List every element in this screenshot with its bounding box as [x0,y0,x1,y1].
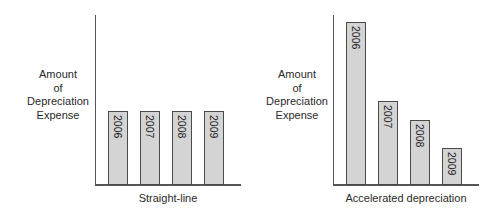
bar-label: 2009 [208,115,220,138]
bar-2007: 2007 [140,111,160,185]
bar-label: 2006 [350,26,362,49]
y-label-line: Depreciation [252,95,342,109]
bar-label: 2007 [382,105,394,128]
y-label-line: Expense [13,109,103,123]
x-axis-label: Straight-line [95,192,241,204]
bar-label: 2008 [414,124,426,147]
bar-2006: 2006 [108,111,128,185]
y-label-line: Amount [252,68,342,82]
y-axis-label: Amount of Depreciation Expense [13,68,103,122]
bar-2007: 2007 [378,101,398,185]
y-axis [333,15,334,185]
y-label-line: Depreciation [13,95,103,109]
accelerated-depreciation-chart: Amount of Depreciation Expense 2006 2007… [250,0,501,220]
y-label-line: Expense [252,109,342,123]
bar-2009: 2009 [442,148,462,185]
y-axis [95,15,96,185]
bar-2008: 2008 [410,120,430,185]
bar-2006: 2006 [346,22,366,185]
y-label-line: Amount [13,68,103,82]
bar-label: 2008 [176,115,188,138]
bar-2008: 2008 [172,111,192,185]
bar-label: 2009 [446,152,458,175]
bar-label: 2007 [144,115,156,138]
y-axis-label: Amount of Depreciation Expense [252,68,342,122]
y-label-line: of [13,82,103,96]
y-label-line: of [252,82,342,96]
bar-2009: 2009 [204,111,224,185]
x-axis-label: Accelerated depreciation [333,192,479,204]
straight-line-chart: Amount of Depreciation Expense 2006 2007… [0,0,250,220]
bar-label: 2006 [112,115,124,138]
